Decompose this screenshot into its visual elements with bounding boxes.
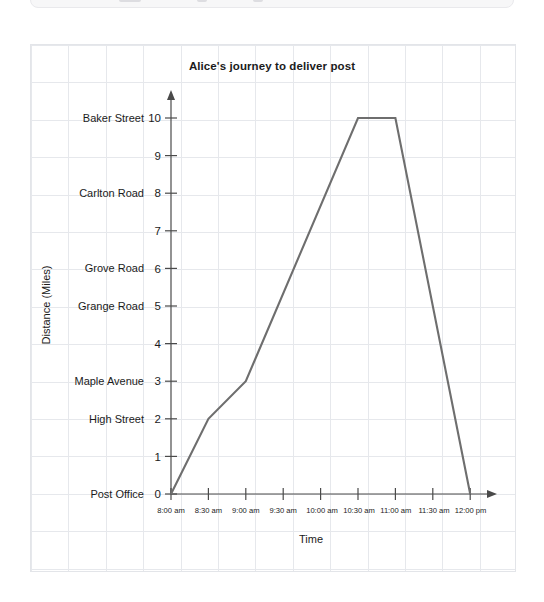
place-label-grove-road: Grove Road [85, 262, 144, 274]
y-tick-label-10: 10 [148, 112, 161, 124]
y-tick-label-7: 7 [155, 225, 161, 237]
y-tick-label-8: 8 [155, 187, 161, 199]
y-axis [167, 90, 175, 494]
x-tick-label-5: 10:30 am [343, 506, 375, 515]
x-tick-label-2: 9:00 am [232, 506, 259, 515]
x-tick-label-7: 11:30 am [418, 506, 449, 515]
place-label-baker-street: Baker Street [83, 112, 144, 124]
x-axis [171, 490, 497, 498]
y-tick-label-6: 6 [155, 263, 161, 275]
place-label-post-office: Post Office [90, 488, 144, 500]
x-tick-label-6: 11:00 am [380, 506, 411, 515]
x-axis-title: Time [299, 533, 323, 545]
y-axis-number-labels: 0 1 2 3 4 5 6 7 8 9 10 [148, 112, 161, 500]
x-axis-tick-labels: 8:00 am 8:30 am 9:00 am 9:30 am 10:00 am… [157, 506, 486, 515]
journey-line-series [171, 118, 470, 494]
x-tick-label-0: 8:00 am [157, 506, 184, 515]
place-label-carlton-road: Carlton Road [79, 187, 144, 199]
x-tick-label-4: 10:00 am [306, 506, 338, 515]
x-tick-label-8: 12:00 pm [455, 506, 487, 515]
place-label-grange-road: Grange Road [78, 300, 144, 312]
y-tick-label-2: 2 [155, 413, 161, 425]
place-label-high-street: High Street [89, 413, 144, 425]
place-label-maple-avenue: Maple Avenue [74, 375, 144, 387]
y-tick-label-5: 5 [155, 300, 161, 312]
x-tick-label-1: 8:30 am [195, 506, 222, 515]
y-axis-title: Distance (Miles) [40, 266, 52, 345]
line-chart-plot: 0 1 2 3 4 5 6 7 8 9 10 Post Office High … [0, 0, 544, 602]
y-tick-label-4: 4 [155, 338, 162, 350]
y-tick-label-9: 9 [155, 150, 161, 162]
y-tick-label-3: 3 [155, 375, 161, 387]
y-axis-place-labels: Post Office High Street Maple Avenue Gra… [74, 112, 144, 500]
x-tick-label-3: 9:30 am [269, 506, 296, 515]
y-tick-label-0: 0 [155, 488, 161, 500]
y-tick-label-1: 1 [155, 451, 161, 463]
worksheet-page: Alice's journey to deliver post [0, 0, 544, 602]
